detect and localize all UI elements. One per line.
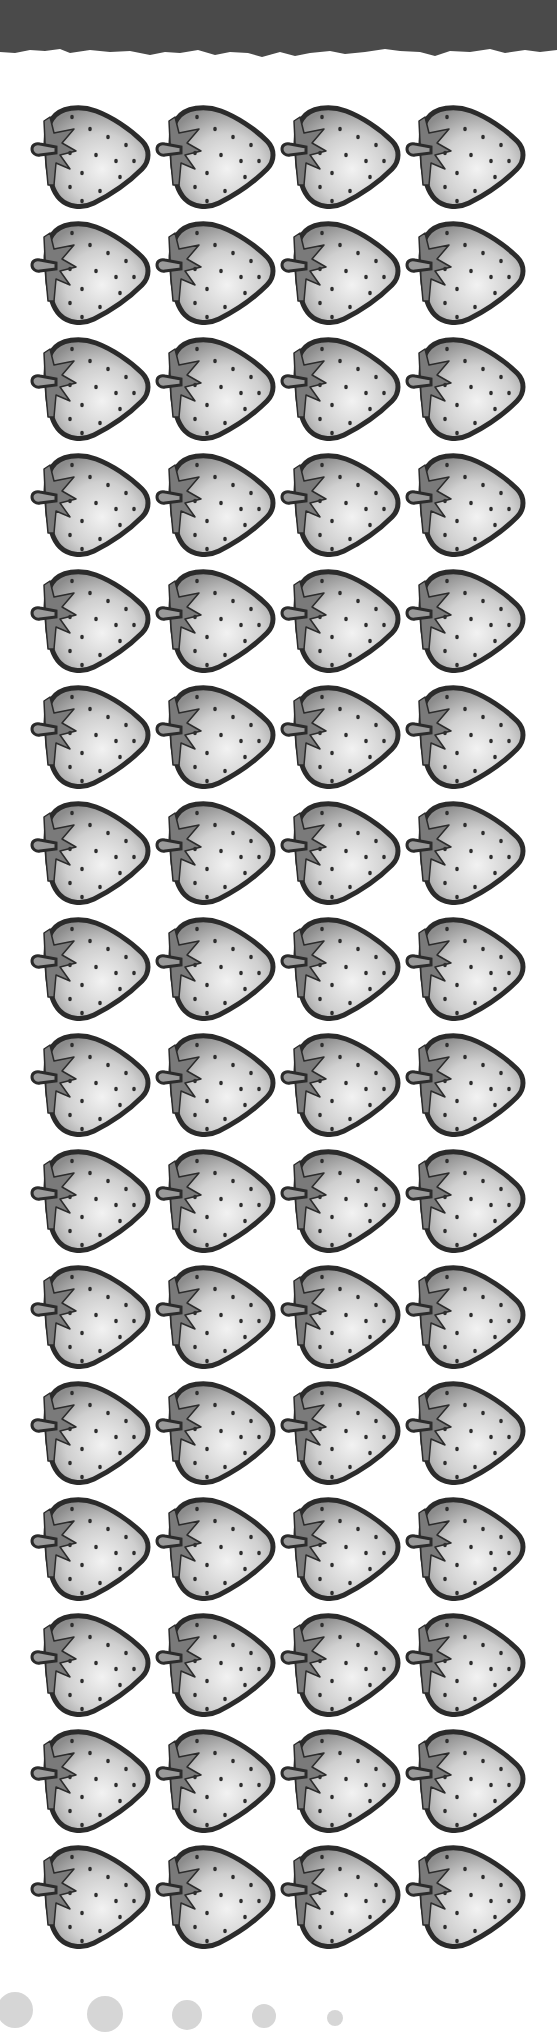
- strawberry-stem: [32, 376, 56, 387]
- strawberry-icon: [280, 1379, 402, 1485]
- strawberry-icon: [405, 1031, 527, 1137]
- strawberry-icon: [30, 567, 152, 673]
- strawberry-stem: [282, 840, 306, 851]
- strawberry-icon: [280, 799, 402, 905]
- strawberry-icon: [280, 1031, 402, 1137]
- strawberry-icon: [155, 103, 277, 209]
- strawberry-stem: [407, 956, 431, 967]
- strawberry-stem: [282, 1304, 306, 1315]
- strawberry-stem: [157, 492, 181, 503]
- strawberry-icon: [280, 1843, 402, 1949]
- strawberry-stem: [407, 1188, 431, 1199]
- strawberry-stem: [157, 1304, 181, 1315]
- strawberry-stem: [157, 1536, 181, 1547]
- strawberry-stem: [32, 144, 56, 155]
- strawberry-stem: [157, 956, 181, 967]
- strawberry-stem: [407, 376, 431, 387]
- strawberry-icon: [155, 219, 277, 325]
- strawberry-icon: [30, 219, 152, 325]
- strawberry-icon: [280, 1727, 402, 1833]
- strawberry-icon: [30, 103, 152, 209]
- circle-dot-icon: [327, 2010, 343, 2026]
- strawberry-stem: [407, 1304, 431, 1315]
- strawberry-stem: [157, 1072, 181, 1083]
- strawberry-icon: [30, 1727, 152, 1833]
- strawberry-stem: [282, 724, 306, 735]
- strawberry-stem: [407, 1536, 431, 1547]
- strawberry-stem: [157, 1884, 181, 1895]
- strawberry-icon: [405, 451, 527, 557]
- strawberry-icon: [405, 567, 527, 673]
- strawberry-stem: [157, 1652, 181, 1663]
- strawberry-icon: [155, 1147, 277, 1253]
- strawberry-stem: [407, 840, 431, 851]
- strawberry-icon: [30, 683, 152, 789]
- strawberry-icon: [155, 915, 277, 1021]
- strawberry-stem: [282, 1536, 306, 1547]
- footer-dots: [0, 1985, 557, 2025]
- strawberry-icon: [30, 799, 152, 905]
- strawberry-icon: [405, 335, 527, 441]
- strawberry-icon: [280, 103, 402, 209]
- strawberry-icon: [30, 915, 152, 1021]
- strawberry-icon: [280, 1495, 402, 1601]
- strawberry-stem: [282, 492, 306, 503]
- strawberry-stem: [282, 608, 306, 619]
- strawberry-icon: [30, 1031, 152, 1137]
- strawberry-stem: [282, 260, 306, 271]
- strawberry-icon: [405, 799, 527, 905]
- strawberry-stem: [32, 1304, 56, 1315]
- strawberry-stem: [282, 376, 306, 387]
- strawberry-icon: [30, 1843, 152, 1949]
- strawberry-icon: [30, 1379, 152, 1485]
- strawberry-icon: [280, 335, 402, 441]
- strawberry-stem: [32, 1768, 56, 1779]
- strawberry-stem: [157, 1420, 181, 1431]
- strawberry-stem: [157, 724, 181, 735]
- strawberry-icon: [30, 451, 152, 557]
- strawberry-icon: [155, 1843, 277, 1949]
- strawberry-stem: [407, 1420, 431, 1431]
- strawberry-icon: [280, 567, 402, 673]
- strawberry-icon: [280, 683, 402, 789]
- strawberry-stem: [32, 608, 56, 619]
- strawberry-stem: [32, 1652, 56, 1663]
- strawberry-stem: [157, 1768, 181, 1779]
- strawberry-icon: [155, 1495, 277, 1601]
- strawberry-stem: [157, 144, 181, 155]
- strawberry-stem: [407, 1768, 431, 1779]
- strawberry-stem: [407, 260, 431, 271]
- strawberry-icon: [155, 1727, 277, 1833]
- strawberry-icon: [155, 335, 277, 441]
- strawberry-stem: [407, 144, 431, 155]
- strawberry-stem: [407, 1072, 431, 1083]
- strawberry-icon: [280, 915, 402, 1021]
- strawberry-icon: [155, 567, 277, 673]
- strawberry-stem: [32, 956, 56, 967]
- strawberry-icon: [405, 1379, 527, 1485]
- strawberry-stem: [32, 840, 56, 851]
- strawberry-stem: [282, 1420, 306, 1431]
- strawberry-icon: [405, 1495, 527, 1601]
- circle-dot-icon: [0, 1992, 33, 2028]
- strawberry-icon: [405, 915, 527, 1021]
- strawberry-icon: [280, 1263, 402, 1369]
- strawberry-stem: [282, 1072, 306, 1083]
- strawberry-stem: [282, 144, 306, 155]
- strawberry-stem: [407, 492, 431, 503]
- strawberry-stem: [32, 1420, 56, 1431]
- strawberry-icon: [280, 1611, 402, 1717]
- strawberry-stem: [32, 260, 56, 271]
- strawberry-stem: [282, 1652, 306, 1663]
- strawberry-icon: [30, 335, 152, 441]
- strawberry-stem: [282, 1768, 306, 1779]
- strawberry-icon: [155, 1031, 277, 1137]
- strawberry-icon: [30, 1611, 152, 1717]
- strawberry-icon: [155, 799, 277, 905]
- strawberry-stem: [282, 1188, 306, 1199]
- strawberry-icon: [30, 1495, 152, 1601]
- strawberry-icon: [280, 1147, 402, 1253]
- strawberry-icon: [405, 1611, 527, 1717]
- strawberry-stem: [157, 1188, 181, 1199]
- strawberry-icon: [405, 683, 527, 789]
